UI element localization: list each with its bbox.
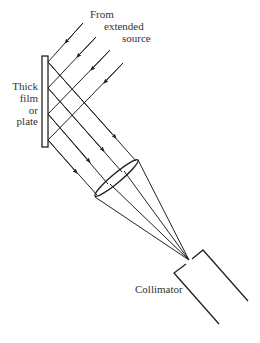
plate-label-line2: film xyxy=(12,92,38,104)
optics-diagram xyxy=(0,0,260,343)
converging-lens xyxy=(92,157,141,200)
source-label-line1: From xyxy=(90,8,114,20)
plate-label-line1: Thick xyxy=(12,80,38,92)
incoming-rays xyxy=(48,23,123,140)
collimator-label: Collimator xyxy=(135,283,183,295)
source-label-line2: extended xyxy=(104,20,144,32)
converging-rays xyxy=(95,160,189,260)
collimator xyxy=(174,250,248,324)
reflected-rays xyxy=(48,62,136,195)
thick-film-plate xyxy=(42,56,48,147)
source-label-line3: source xyxy=(122,32,151,44)
plate-label-line4: plate xyxy=(12,115,38,127)
